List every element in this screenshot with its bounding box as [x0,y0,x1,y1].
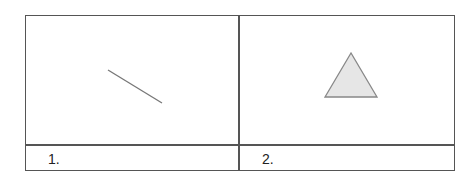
triangle-figure [325,53,377,97]
figures-canvas [0,0,476,181]
line-segment-figure [108,70,162,103]
